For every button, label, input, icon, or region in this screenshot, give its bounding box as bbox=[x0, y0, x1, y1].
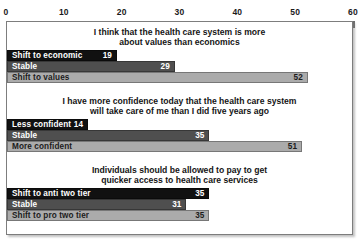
group-title-line: will take care of me than I did five yea… bbox=[17, 106, 342, 116]
bar-row: Shift to pro two tier35 bbox=[7, 210, 352, 221]
bar-row: Shift to values52 bbox=[7, 72, 352, 83]
bar-category-label: Stable bbox=[8, 200, 37, 209]
bar[interactable]: More confident51 bbox=[7, 141, 302, 152]
bar-category-label: Shift to pro two tier bbox=[8, 211, 89, 220]
group-title: I have more confidence today that the he… bbox=[7, 96, 352, 117]
bar[interactable]: Stable35 bbox=[7, 130, 209, 141]
bar-row: Stable29 bbox=[7, 61, 352, 72]
horizontal-bar-chart: 0102030405060 I think that the health ca… bbox=[0, 0, 361, 244]
bar-row: Shift to economic19 bbox=[7, 50, 352, 61]
x-axis-label-50: 50 bbox=[290, 7, 300, 17]
bar-category-label: More confident bbox=[8, 142, 72, 151]
group-title-line: Individuals should be allowed to pay to … bbox=[17, 165, 342, 175]
bar[interactable]: Stable29 bbox=[7, 61, 175, 72]
bar-group: I think that the health care system is m… bbox=[7, 27, 352, 83]
bar-row: Less confident14 bbox=[7, 119, 352, 130]
bar[interactable]: Less confident14 bbox=[7, 119, 88, 130]
group-title-line: quicker access to health care services bbox=[17, 175, 342, 185]
bar-row: Stable31 bbox=[7, 199, 352, 210]
group-title-line: about values than economics bbox=[17, 37, 342, 47]
bar-category-label: Less confident bbox=[8, 120, 71, 129]
bar-value-label: 35 bbox=[195, 211, 208, 220]
bar[interactable]: Stable31 bbox=[7, 199, 186, 210]
x-axis-label-30: 30 bbox=[175, 7, 185, 17]
bar-row: More confident51 bbox=[7, 141, 352, 152]
x-axis-label-60: 60 bbox=[348, 7, 358, 17]
bar-group: I have more confidence today that the he… bbox=[7, 96, 352, 152]
bar-category-label: Shift to economic bbox=[8, 51, 82, 60]
bar-value-label: 31 bbox=[172, 200, 185, 209]
bar-category-label: Stable bbox=[8, 62, 37, 71]
group-title: Individuals should be allowed to pay to … bbox=[7, 165, 352, 186]
bar-category-label: Stable bbox=[8, 131, 37, 140]
plot-area: I think that the health care system is m… bbox=[6, 21, 353, 235]
bar[interactable]: Shift to values52 bbox=[7, 72, 308, 83]
bar-row: Stable35 bbox=[7, 130, 352, 141]
group-bars: Less confident14Stable35More confident51 bbox=[7, 119, 352, 152]
x-axis-label-10: 10 bbox=[59, 7, 69, 17]
bar-value-label: 35 bbox=[195, 131, 208, 140]
bar[interactable]: Shift to pro two tier35 bbox=[7, 210, 209, 221]
bar-value-label: 19 bbox=[103, 51, 116, 60]
group-title-line: I think that the health care system is m… bbox=[17, 27, 342, 37]
bar[interactable]: Shift to economic19 bbox=[7, 50, 117, 61]
bar-group: Individuals should be allowed to pay to … bbox=[7, 165, 352, 221]
bar-value-label: 51 bbox=[288, 142, 301, 151]
bar-row: Shift to anti two tier35 bbox=[7, 188, 352, 199]
group-bars: Shift to economic19Stable29Shift to valu… bbox=[7, 50, 352, 83]
bar[interactable]: Shift to anti two tier35 bbox=[7, 188, 209, 199]
group-bars: Shift to anti two tier35Stable31Shift to… bbox=[7, 188, 352, 221]
x-axis-label-20: 20 bbox=[117, 7, 127, 17]
bar-category-label: Shift to anti two tier bbox=[8, 189, 91, 198]
x-axis-tick-labels: 0102030405060 bbox=[0, 7, 361, 20]
x-axis-label-40: 40 bbox=[232, 7, 242, 17]
bar-value-label: 35 bbox=[195, 189, 208, 198]
bar-value-label: 29 bbox=[161, 62, 174, 71]
bar-category-label: Shift to values bbox=[8, 73, 69, 82]
group-title-line: I have more confidence today that the he… bbox=[17, 96, 342, 106]
x-axis-label-0: 0 bbox=[4, 7, 9, 17]
group-title: I think that the health care system is m… bbox=[7, 27, 352, 48]
bar-value-label: 14 bbox=[74, 120, 87, 129]
bar-value-label: 52 bbox=[294, 73, 307, 82]
